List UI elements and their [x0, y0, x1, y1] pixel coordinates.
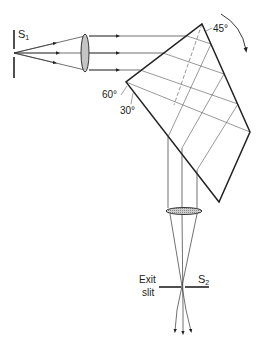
diagram-canvas — [0, 0, 265, 343]
exit-slit-text-line2: slit — [142, 288, 154, 298]
collimated-rays — [89, 36, 187, 70]
exit-slit-text-line1: Exit — [139, 275, 156, 285]
prism — [126, 24, 250, 202]
monochromator-diagram: S1 45° 60° 30° Exit slit S2 — [0, 0, 265, 343]
angle-left-30-label: 30° — [120, 106, 135, 116]
focusing-lens — [166, 208, 202, 215]
prism-internal-rays — [126, 24, 250, 170]
diverging-rays — [14, 36, 85, 70]
angle-top-label: 45° — [213, 24, 228, 34]
collimating-lens — [81, 34, 89, 72]
converging-rays — [170, 214, 197, 333]
angle-left-60-label: 60° — [102, 90, 117, 100]
exit-slit-label: S2 — [198, 274, 209, 286]
exit-slit-subscript: 2 — [205, 279, 209, 286]
entrance-slit-subscript: 1 — [25, 34, 29, 41]
entrance-slit-label: S1 — [18, 29, 29, 41]
